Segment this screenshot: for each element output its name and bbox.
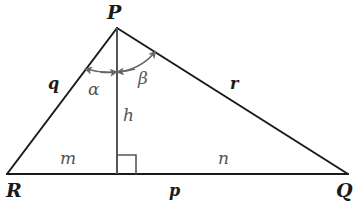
side-pq [117, 28, 348, 174]
right-angle-marker [117, 155, 136, 174]
vertex-label-p: P [106, 1, 122, 23]
segment-label-m: m [60, 148, 76, 168]
angle-label-beta: β [137, 68, 148, 88]
side-label-q: q [48, 74, 59, 93]
segment-label-n: n [218, 148, 229, 168]
vertex-label-r: R [5, 179, 22, 201]
altitude-label-h: h [123, 105, 134, 125]
angle-alpha-arc-right [100, 72, 116, 73]
angle-label-alpha: α [88, 79, 100, 99]
side-label-p: p [169, 181, 180, 200]
triangle-diagram: P R Q q r p m n h α β [0, 0, 353, 209]
angle-beta-arc-left [118, 69, 135, 72]
side-label-r: r [230, 74, 240, 93]
vertex-label-q: Q [336, 179, 353, 201]
